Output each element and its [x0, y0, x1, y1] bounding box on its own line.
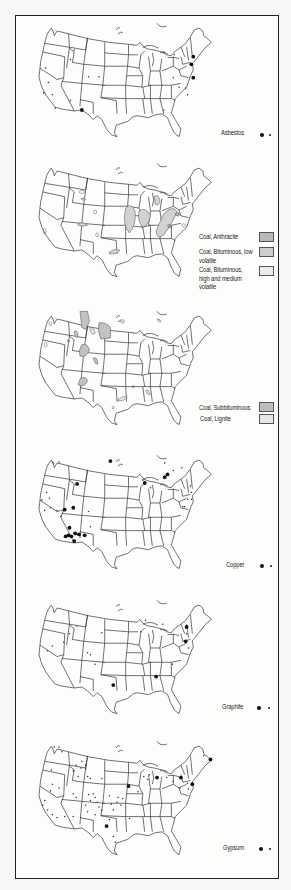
legend-major-dot-icon: [260, 133, 264, 137]
major-site-dot-icon: [75, 482, 79, 486]
minor-site-dot-icon: [87, 652, 89, 654]
minor-site-dot-icon: [101, 778, 103, 780]
us-map-copper: [19, 450, 219, 575]
minor-site-dot-icon: [90, 654, 92, 656]
minor-site-dot-icon: [50, 790, 52, 792]
minor-site-dot-icon: [44, 510, 46, 512]
minor-site-dot-icon: [182, 506, 184, 508]
legend-minor-dot-icon: [268, 707, 270, 709]
major-site-dot-icon: [154, 675, 158, 679]
minor-site-dot-icon: [90, 800, 92, 802]
legend-graphite: Graphite: [222, 703, 248, 710]
major-site-dot-icon: [155, 776, 159, 780]
minor-site-dot-icon: [122, 798, 124, 800]
minor-site-dot-icon: [203, 755, 205, 757]
legend-major-dot-icon: [257, 706, 261, 710]
us-map-coal-bituminous: [19, 158, 219, 283]
legend-minor-dot-icon: [269, 848, 271, 850]
minor-site-dot-icon: [58, 461, 60, 463]
minor-site-dot-icon: [191, 498, 193, 500]
legend-coal-subbituminous: Coal, Subbituminous: [199, 404, 262, 411]
map-panel-graphite: Graphite: [16, 593, 280, 741]
minor-site-dot-icon: [87, 776, 89, 778]
legend-gypsum: Gypsum: [223, 844, 248, 851]
minor-site-dot-icon: [101, 809, 103, 811]
minor-site-dot-icon: [88, 794, 90, 796]
minor-site-dot-icon: [60, 516, 62, 518]
minor-site-dot-icon: [117, 797, 119, 799]
map-panel-coal-bituminous: Coal, Anthracite Coal, Bituminous, low v…: [16, 156, 280, 304]
major-site-dot-icon: [189, 62, 193, 66]
legend-label: Asbestos: [221, 129, 244, 136]
major-site-dot-icon: [191, 55, 195, 59]
minor-site-dot-icon: [52, 645, 54, 647]
minor-site-dot-icon: [94, 797, 96, 799]
minor-site-dot-icon: [49, 497, 51, 499]
minor-site-dot-icon: [129, 818, 131, 820]
minor-site-dot-icon: [187, 498, 189, 500]
minor-site-dot-icon: [70, 59, 72, 61]
minor-site-dot-icon: [179, 787, 181, 789]
legend-major-dot-icon: [260, 564, 264, 568]
minor-site-dot-icon: [43, 92, 45, 94]
minor-site-dot-icon: [187, 94, 189, 96]
legend-coal-bituminous-low: Coal, Bituminous, low volatile: [199, 248, 255, 265]
swatch-anthracite: [259, 232, 274, 242]
us-map-coal-subbituminous: [19, 306, 219, 431]
major-site-dot-icon: [143, 481, 147, 485]
minor-site-dot-icon: [70, 100, 72, 102]
minor-site-dot-icon: [150, 487, 152, 489]
minor-site-dot-icon: [93, 793, 95, 795]
swatch-bituminous-low: [259, 247, 274, 257]
minor-site-dot-icon: [88, 76, 90, 78]
legend-label: Coal, Bituminous, low volatile: [199, 248, 253, 265]
major-site-dot-icon: [127, 784, 131, 788]
minor-site-dot-icon: [58, 746, 60, 748]
minor-site-dot-icon: [73, 793, 75, 795]
minor-site-dot-icon: [56, 510, 58, 512]
minor-site-dot-icon: [172, 663, 174, 665]
major-site-dot-icon: [209, 758, 213, 762]
minor-site-dot-icon: [63, 642, 65, 644]
minor-site-dot-icon: [186, 633, 188, 635]
minor-site-dot-icon: [73, 816, 75, 818]
minor-site-dot-icon: [44, 800, 46, 802]
major-site-dot-icon: [111, 683, 115, 687]
minor-site-dot-icon: [190, 485, 192, 487]
minor-site-dot-icon: [42, 804, 44, 806]
legend-major-dot-icon: [259, 847, 263, 851]
minor-site-dot-icon: [47, 809, 49, 811]
major-site-dot-icon: [63, 508, 67, 512]
minor-site-dot-icon: [181, 467, 183, 469]
major-site-dot-icon: [190, 782, 194, 786]
minor-site-dot-icon: [41, 499, 43, 501]
minor-site-dot-icon: [75, 764, 77, 766]
minor-site-dot-icon: [98, 76, 100, 78]
minor-site-dot-icon: [109, 819, 111, 821]
minor-site-dot-icon: [109, 795, 111, 797]
minor-site-dot-icon: [90, 778, 92, 780]
minor-site-dot-icon: [163, 109, 165, 111]
map-panel-asbestos: Asbestos: [16, 16, 280, 164]
minor-site-dot-icon: [184, 506, 186, 508]
minor-site-dot-icon: [94, 663, 96, 665]
swatch-subbituminous: [259, 402, 274, 412]
major-site-dot-icon: [191, 76, 195, 80]
major-site-dot-icon: [105, 824, 109, 828]
minor-site-dot-icon: [64, 816, 66, 818]
minor-site-dot-icon: [94, 814, 96, 816]
swatch-bituminous-high: [259, 266, 274, 276]
minor-site-dot-icon: [81, 761, 83, 763]
minor-site-dot-icon: [178, 86, 180, 88]
map-panel-copper: Copper: [16, 448, 280, 596]
minor-site-dot-icon: [96, 802, 98, 804]
minor-site-dot-icon: [173, 54, 175, 56]
minor-site-dot-icon: [76, 625, 78, 627]
legend-coal-anthracite: Coal, Anthracite: [199, 233, 247, 240]
minor-site-dot-icon: [52, 94, 54, 96]
us-map-asbestos: [19, 18, 219, 143]
map-panel-gypsum: Gypsum: [16, 734, 280, 882]
minor-site-dot-icon: [50, 507, 52, 509]
us-map-graphite: [19, 595, 219, 720]
minor-site-dot-icon: [113, 809, 115, 811]
